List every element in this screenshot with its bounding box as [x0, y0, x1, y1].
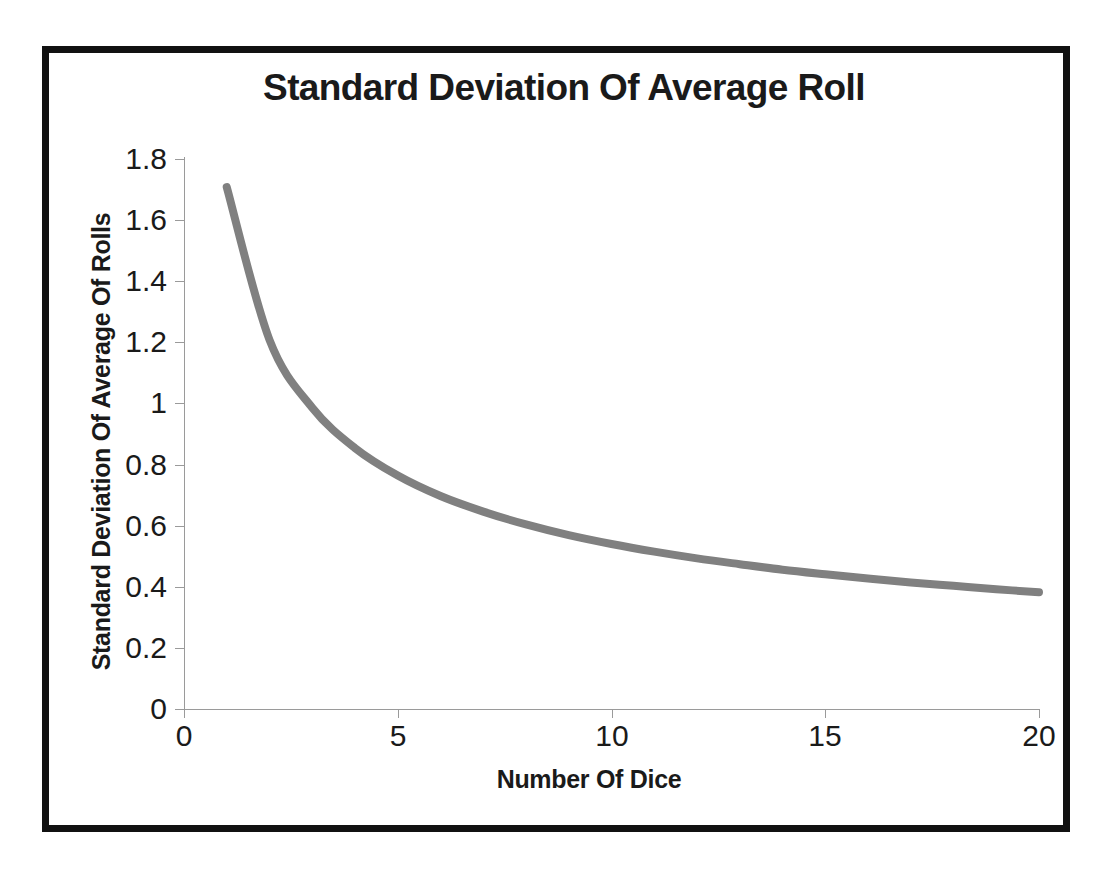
chart-page: Standard Deviation Of Average Roll Stand… [0, 0, 1104, 874]
chart-inner: Standard Deviation Of Average Roll Stand… [49, 53, 1063, 825]
series-line-standard-deviation [227, 187, 1039, 592]
chart-frame: Standard Deviation Of Average Roll Stand… [42, 46, 1070, 832]
series-plot [49, 53, 1077, 839]
